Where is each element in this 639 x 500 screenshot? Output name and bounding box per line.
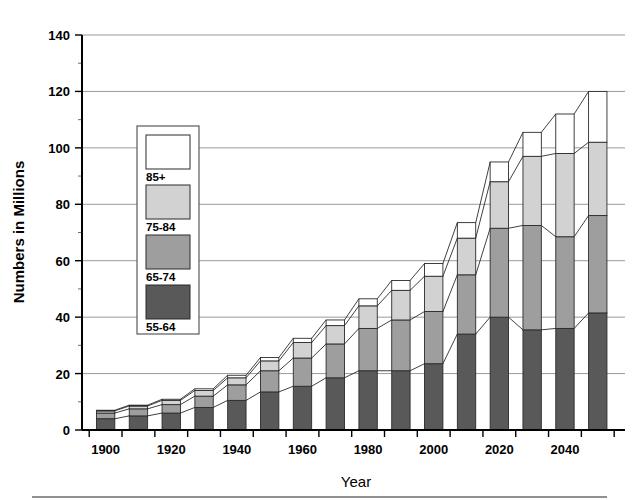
chart-legend: 85+75-8465-7455-64: [137, 126, 199, 334]
connector-55-64: [148, 413, 162, 416]
bar-segment-65-74: [195, 396, 213, 407]
connector-55-64: [180, 407, 194, 413]
x-tick-label: 2040: [550, 442, 579, 457]
bar-segment-65-74: [523, 225, 541, 329]
bar-segment-75-84: [589, 142, 607, 215]
y-tick-label: 0: [63, 423, 70, 438]
connector-65-74: [344, 328, 358, 344]
bar-segment-65-74: [490, 228, 508, 317]
legend-swatch-75-84: [146, 185, 190, 219]
connector-85+: [574, 91, 588, 114]
bar-segment-85+: [293, 338, 311, 342]
connector-75-84: [115, 406, 129, 411]
bar-segment-75-84: [162, 400, 180, 404]
connector-85+: [312, 320, 326, 338]
bar-segment-75-84: [326, 326, 344, 344]
connector-65-74: [541, 225, 555, 236]
bar-segment-65-74: [556, 237, 574, 329]
bar-segment-75-84: [359, 306, 377, 329]
connector-55-64: [246, 392, 260, 400]
bar-segment-55-64: [129, 416, 147, 430]
connector-75-84: [312, 326, 326, 343]
connector-55-64: [115, 416, 129, 419]
connector-75-84: [509, 156, 523, 181]
legend-swatch-85+: [146, 135, 190, 169]
bar-segment-65-74: [359, 328, 377, 370]
bar-segment-75-84: [425, 276, 443, 311]
x-tick-label: 1960: [288, 442, 317, 457]
x-tick-label: 1920: [157, 442, 186, 457]
bar-segment-55-64: [260, 392, 278, 430]
bar-segment-55-64: [162, 413, 180, 430]
bar-segment-55-64: [523, 330, 541, 430]
y-tick-label: 120: [48, 84, 70, 99]
connector-85+: [377, 280, 391, 298]
bar-segment-85+: [392, 280, 410, 290]
connector-75-84: [541, 154, 555, 157]
y-tick-label: 20: [56, 367, 70, 382]
bar-segment-75-84: [260, 361, 278, 371]
bar-segment-75-84: [523, 156, 541, 225]
bar-segment-85+: [359, 299, 377, 306]
bar-segment-65-74: [260, 371, 278, 392]
bar-segment-55-64: [326, 378, 344, 430]
connector-75-84: [213, 378, 227, 391]
y-axis-ticks: [75, 35, 82, 430]
y-tick-label: 60: [56, 254, 70, 269]
bar-segment-85+: [228, 375, 246, 378]
bar-segment-55-64: [556, 328, 574, 430]
bar-segment-55-64: [490, 317, 508, 430]
bar-segment-55-64: [392, 371, 410, 430]
bar-segment-65-74: [96, 413, 114, 419]
connector-65-74: [476, 228, 490, 275]
bar-segment-55-64: [359, 371, 377, 430]
connector-55-64: [509, 317, 523, 330]
bar-segment-65-74: [457, 275, 475, 334]
bar-segment-65-74: [392, 320, 410, 371]
y-tick-label: 140: [48, 28, 70, 43]
population-stacked-bar-chart: Numbers in Millions Year 020406080100120…: [0, 0, 639, 500]
connector-55-64: [443, 334, 457, 364]
legend-label-85+: 85+: [146, 171, 166, 183]
y-tick-label: 80: [56, 197, 70, 212]
bar-segment-55-64: [96, 419, 114, 430]
bar-segment-55-64: [228, 400, 246, 430]
x-tick-label: 1900: [91, 442, 120, 457]
bar-segment-85+: [425, 264, 443, 277]
y-tick-label: 100: [48, 141, 70, 156]
x-axis-title: Year: [341, 473, 371, 490]
legend-label-75-84: 75-84: [146, 221, 176, 233]
connector-55-64: [344, 371, 358, 378]
bar-segment-55-64: [195, 407, 213, 430]
connector-85+: [476, 162, 490, 223]
bar-segment-85+: [260, 357, 278, 360]
connector-55-64: [541, 328, 555, 329]
connector-65-74: [377, 320, 391, 328]
connector-75-84: [180, 391, 194, 401]
connector-85+: [541, 114, 555, 132]
connector-65-74: [574, 216, 588, 237]
connector-65-74: [509, 225, 523, 228]
bar-segment-85+: [162, 399, 180, 400]
y-axis-title: Numbers in Millions: [10, 161, 27, 304]
x-axis-tick-labels: 19001920194019601980200020202040: [91, 442, 579, 457]
connector-55-64: [410, 364, 424, 371]
bar-segment-85+: [556, 114, 574, 154]
y-axis-tick-labels: 020406080100120140: [48, 28, 70, 438]
bar-segment-75-84: [293, 343, 311, 359]
connector-65-74: [312, 344, 326, 358]
bar-segment-85+: [326, 320, 344, 326]
connector-85+: [509, 132, 523, 162]
bar-segment-65-74: [425, 312, 443, 364]
bar-segment-65-74: [326, 344, 344, 378]
bar-segment-65-74: [228, 385, 246, 401]
connector-55-64: [279, 386, 293, 392]
x-axis-ticks: [89, 430, 614, 437]
bar-segment-85+: [457, 223, 475, 239]
bar-segment-85+: [589, 91, 607, 142]
legend-label-55-64: 55-64: [146, 321, 176, 333]
connector-55-64: [476, 317, 490, 334]
bar-segment-85+: [195, 389, 213, 391]
bar-segment-85+: [523, 132, 541, 156]
bar-segment-75-84: [195, 391, 213, 397]
